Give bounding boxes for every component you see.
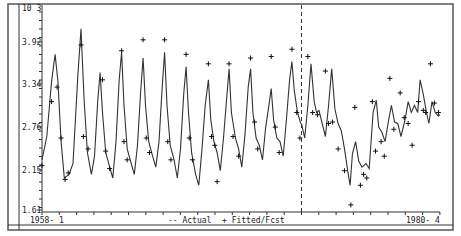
x-end-label: 1980- 4 (406, 216, 440, 225)
y-tick-label: 3.34 (22, 80, 41, 89)
x-start-label: 1958- 1 (30, 216, 64, 225)
legend-actual: -- Actual (168, 216, 212, 225)
y-ticks: 1.612.152.763.343.92 (22, 12, 42, 215)
scale-label: 10 3 (22, 4, 41, 13)
series-fitted-markers (40, 37, 441, 207)
y-tick-label: 1.61 (22, 206, 41, 215)
y-tick-label: 2.15 (22, 166, 41, 175)
y-tick-label: 2.76 (22, 123, 41, 132)
outer-frame (8, 4, 453, 230)
y-tick-label: 3.92 (22, 38, 41, 47)
series-actual-line-forecast (302, 64, 441, 186)
legend-fitted: + Fitted/Fcst (222, 216, 285, 225)
chart-canvas: 10 3 1.612.152.763.343.92 1958- 1 -- Act… (0, 0, 461, 236)
